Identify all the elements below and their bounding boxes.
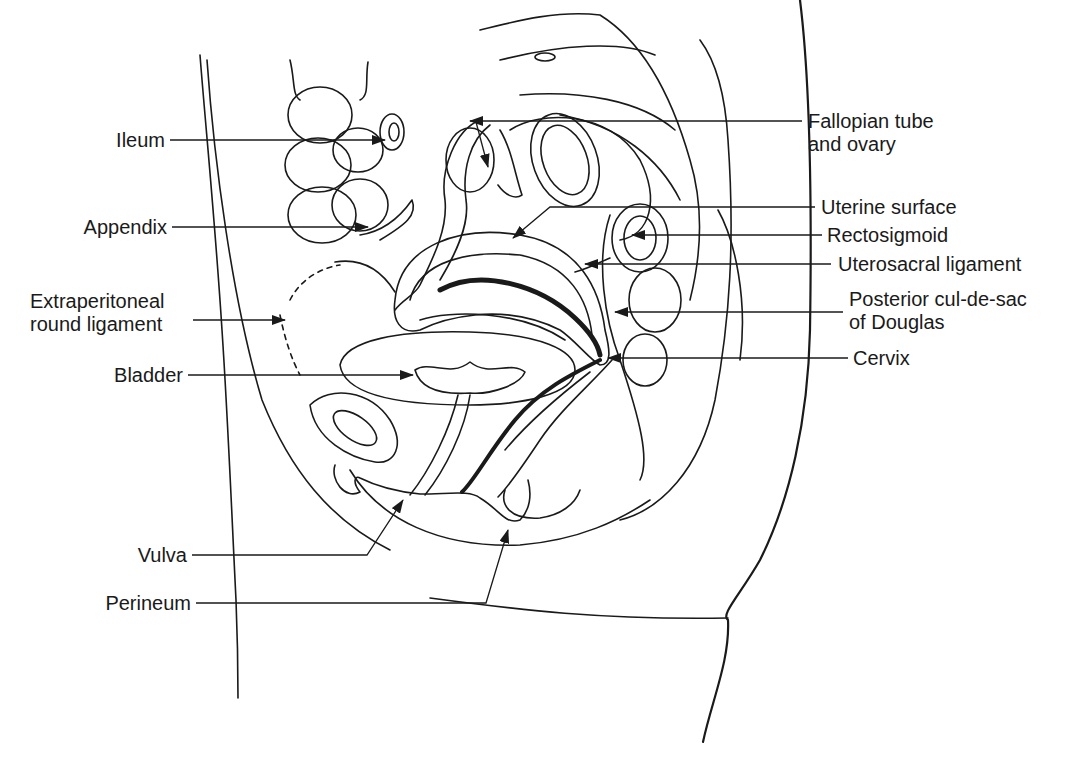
label-uterine-surface: Uterine surface: [821, 196, 957, 219]
body-outline-posterior: [703, 0, 811, 742]
label-round-ligament: Extraperitoneal round ligament: [30, 290, 165, 336]
rectosigmoid-upper: [510, 104, 650, 240]
label-bladder: Bladder: [60, 364, 183, 387]
perineal-body: [504, 490, 580, 518]
uterus: [394, 233, 609, 365]
ileum-loops: [285, 60, 413, 243]
leader-lines: [170, 121, 848, 603]
anatomy-diagram: Ileum Appendix Extraperitoneal round lig…: [0, 0, 1081, 761]
body-outline-anterior: [200, 55, 238, 698]
leader-uterine-surface: [513, 207, 815, 238]
label-posterior-cul-de-sac: Posterior cul-de-sac of Douglas: [849, 288, 1027, 334]
label-rectosigmoid: Rectosigmoid: [827, 224, 948, 247]
label-perineum: Perineum: [60, 592, 191, 615]
rectum: [603, 204, 681, 480]
sacrum: [480, 14, 699, 300]
vulva-labia: [334, 465, 530, 521]
pubic-bone: [310, 393, 397, 462]
thigh-line: [430, 598, 728, 618]
label-cervix: Cervix: [853, 347, 910, 370]
uterosacral-ligament: [575, 258, 610, 272]
label-ileum: Ileum: [60, 129, 165, 152]
leader-vulva: [192, 500, 403, 555]
label-vulva: Vulva: [60, 544, 187, 567]
label-appendix: Appendix: [40, 216, 167, 239]
label-uterosacral-ligament: Uterosacral ligament: [838, 253, 1021, 276]
label-fallopian-tube-ovary: Fallopian tube and ovary: [808, 110, 934, 156]
vaginal-canal: [462, 360, 612, 497]
